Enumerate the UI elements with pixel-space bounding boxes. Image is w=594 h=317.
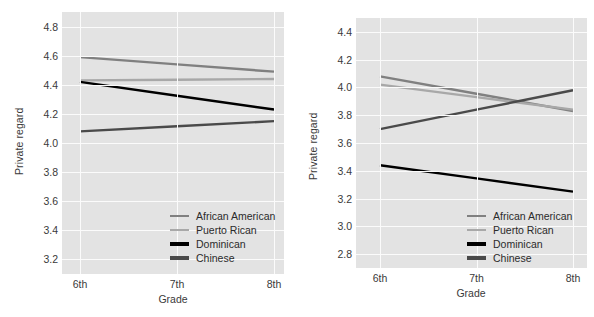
gridline-horizontal [62,143,284,144]
legend-item[interactable]: Dominican [170,237,275,251]
gridline-horizontal [356,143,587,144]
legend-item[interactable]: Puerto Rican [170,223,275,237]
gridline-horizontal [62,27,284,28]
gridline-horizontal [356,87,587,88]
legend-item[interactable]: African American [170,209,275,223]
x-axis-title-left: Grade [158,293,187,305]
x-tick-label: 7th [469,272,484,284]
y-axis-ticks-right: 2.83.03.23.43.63.84.04.24.4 [314,0,352,317]
legend-item[interactable]: Chinese [170,251,275,265]
legend-item[interactable]: African American [467,209,572,223]
gridline-horizontal [62,85,284,86]
x-tick-label: 6th [373,272,388,284]
x-axis-ticks-left: 6th7th8th [62,278,284,292]
gridline-vertical [80,12,81,274]
gridline-horizontal [62,114,284,115]
y-tick-label: 4.2 [20,108,58,120]
gridline-vertical [380,18,381,268]
gridline-horizontal [62,172,284,173]
gridline-vertical [573,18,574,268]
y-tick-label: 4.0 [314,81,352,93]
y-tick-label: 4.8 [20,21,58,33]
legend-item-label: African American [493,211,572,222]
x-axis-ticks-right: 6th7th8th [356,272,587,286]
legend-item-label: Puerto Rican [196,225,257,236]
figure-two-line-charts: Private regard 3.23.43.63.84.04.24.44.64… [0,0,594,317]
y-tick-label: 2.8 [314,248,352,260]
legend-line-icon [467,242,486,245]
gridline-horizontal [356,115,587,116]
y-tick-label: 4.4 [20,79,58,91]
y-tick-label: 3.2 [314,193,352,205]
y-tick-label: 4.4 [314,26,352,38]
y-tick-label: 3.4 [314,165,352,177]
x-axis-title-right: Grade [456,287,485,299]
legend-line-icon [467,215,486,218]
x-tick-label: 6th [73,278,88,290]
legend-item[interactable]: Puerto Rican [467,223,572,237]
legend-item-label: Puerto Rican [493,225,554,236]
y-tick-label: 3.4 [20,224,58,236]
chart-panel-left: Private regard 3.23.43.63.84.04.24.44.64… [0,0,297,317]
legend-item[interactable]: Chinese [467,251,572,265]
legend-line-icon [467,229,486,232]
y-tick-label: 3.8 [20,166,58,178]
legend-line-icon [170,215,189,218]
y-tick-label: 4.2 [314,54,352,66]
legend-left: African AmericanPuerto RicanDominicanChi… [170,209,275,265]
gridline-horizontal [356,171,587,172]
y-tick-label: 3.2 [20,253,58,265]
y-tick-label: 3.8 [314,109,352,121]
chart-panel-right: Private regard 2.83.03.23.43.63.84.04.24… [297,0,594,317]
gridline-horizontal [356,60,587,61]
y-axis-ticks-left: 3.23.43.63.84.04.24.44.64.8 [20,0,58,317]
legend-item-label: Dominican [493,239,543,250]
x-tick-label: 8th [267,278,282,290]
y-tick-label: 4.0 [20,137,58,149]
gridline-horizontal [356,199,587,200]
legend-line-icon [170,256,189,259]
x-tick-label: 7th [170,278,185,290]
y-tick-label: 3.0 [314,220,352,232]
gridline-horizontal [356,32,587,33]
legend-line-icon [467,256,486,259]
y-tick-label: 4.6 [20,50,58,62]
legend-right: African AmericanPuerto RicanDominicanChi… [467,209,572,265]
legend-item-label: Chinese [196,253,235,264]
gridline-horizontal [62,201,284,202]
y-tick-label: 3.6 [20,195,58,207]
legend-item-label: Chinese [493,253,532,264]
y-tick-label: 3.6 [314,137,352,149]
legend-item-label: African American [196,211,275,222]
legend-line-icon [170,242,189,245]
legend-line-icon [170,229,189,232]
gridline-horizontal [62,56,284,57]
legend-item[interactable]: Dominican [467,237,572,251]
x-tick-label: 8th [566,272,581,284]
legend-item-label: Dominican [196,239,246,250]
